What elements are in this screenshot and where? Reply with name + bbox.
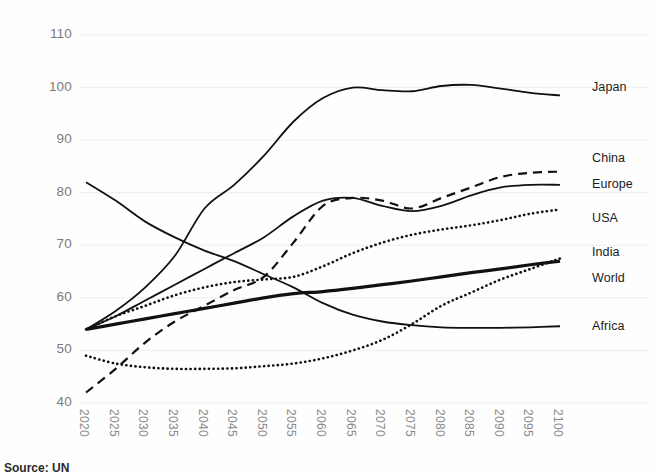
y-axis-tick-100: 100 (26, 79, 72, 94)
y-axis-tick-90: 90 (26, 131, 72, 146)
series-label-china: China (592, 151, 625, 165)
x-axis-tick-2060: 2060 (314, 409, 328, 437)
series-label-india: India (592, 245, 620, 259)
series-lines-group (86, 85, 560, 393)
series-line-world (86, 261, 560, 329)
chart-container: 110100908070605040 202020252030203520402… (0, 0, 655, 474)
series-label-world: World (592, 271, 625, 285)
x-axis-tick-2065: 2065 (344, 409, 358, 437)
series-label-japan: Japan (592, 80, 627, 94)
series-label-africa: Africa (592, 319, 625, 333)
x-axis-tick-2030: 2030 (136, 409, 150, 437)
x-axis-tick-2080: 2080 (433, 409, 447, 437)
y-axis-tick-80: 80 (26, 184, 72, 199)
x-axis-tick-2070: 2070 (373, 409, 387, 437)
series-line-africa (86, 182, 560, 328)
x-axis-tick-2055: 2055 (284, 409, 298, 437)
source-note: Source: UN (4, 461, 69, 474)
y-axis-tick-110: 110 (26, 26, 72, 41)
x-axis-tick-2075: 2075 (403, 409, 417, 437)
x-axis-tick-2090: 2090 (492, 409, 506, 437)
y-axis-tick-50: 50 (26, 341, 72, 356)
line-chart-plot (0, 0, 655, 474)
y-axis-tick-70: 70 (26, 236, 72, 251)
series-label-europe: Europe (592, 177, 633, 191)
series-label-usa: USA (592, 211, 618, 225)
y-axis-tick-60: 60 (26, 289, 72, 304)
x-axis-tick-2025: 2025 (107, 409, 121, 437)
x-axis-tick-2035: 2035 (166, 409, 180, 437)
x-axis-tick-2085: 2085 (462, 409, 476, 437)
x-axis-tick-2040: 2040 (196, 409, 210, 437)
x-axis-tick-2045: 2045 (225, 409, 239, 437)
x-axis-tick-2020: 2020 (77, 409, 91, 437)
x-axis-tick-2100: 2100 (551, 409, 565, 437)
x-axis-tick-2050: 2050 (255, 409, 269, 437)
y-axis-tick-40: 40 (26, 394, 72, 409)
x-axis-tick-2095: 2095 (521, 409, 535, 437)
